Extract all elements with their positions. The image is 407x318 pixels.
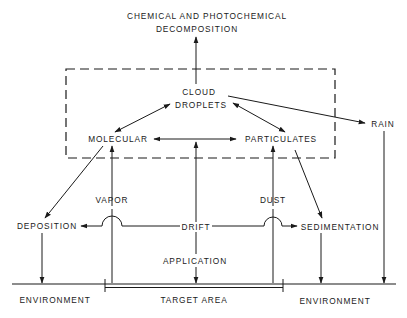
node-rain: RAIN bbox=[371, 120, 394, 128]
node-deposition: DEPOSITION bbox=[17, 222, 77, 230]
label-target-area: TARGET AREA bbox=[160, 296, 227, 304]
node-dust: DUST bbox=[260, 196, 286, 204]
arrow-molecular-to-deposition bbox=[45, 146, 103, 218]
arrow-drift-to-sedimentation bbox=[212, 217, 297, 226]
node-application: APPLICATION bbox=[163, 257, 227, 265]
node-sedimentation: SEDIMENTATION bbox=[301, 223, 380, 231]
arrow-cloud-to-rain bbox=[228, 96, 365, 123]
node-cloud-line2: DROPLETS bbox=[175, 101, 227, 109]
arrow-cloud-molecular bbox=[115, 104, 170, 132]
node-drift: DRIFT bbox=[182, 223, 211, 231]
arrow-cloud-particulates bbox=[233, 103, 285, 132]
node-particulates: PARTICULATES bbox=[245, 135, 317, 143]
diagram-canvas bbox=[0, 0, 407, 318]
arrow-particulates-to-sedimentation bbox=[295, 150, 322, 218]
atmosphere-box bbox=[66, 69, 335, 158]
node-vapor: VAPOR bbox=[96, 196, 129, 204]
label-environment-left: ENVIRONMENT bbox=[19, 296, 90, 304]
node-cloud-line1: CLOUD bbox=[182, 88, 216, 96]
title-line1: CHEMICAL AND PHOTOCHEMICAL bbox=[127, 12, 287, 20]
title-line2: DECOMPOSITION bbox=[156, 25, 238, 33]
node-molecular: MOLECULAR bbox=[88, 135, 148, 143]
label-environment-right: ENVIRONMENT bbox=[299, 297, 370, 305]
arrow-drift-to-deposition bbox=[81, 216, 180, 226]
